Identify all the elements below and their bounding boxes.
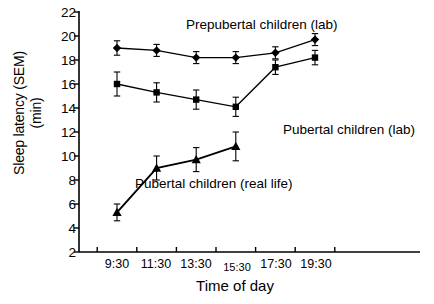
data-point-marker — [232, 53, 240, 61]
data-point-marker — [192, 53, 200, 61]
data-point-marker — [193, 96, 199, 102]
data-point-marker — [271, 49, 279, 57]
y-axis-label-line2: (min) — [28, 98, 44, 129]
y-tick-label-6: 6 — [50, 198, 76, 212]
data-point-marker — [153, 89, 159, 95]
series-label-pubertal-real-life: Pubertal children (real life) — [135, 176, 293, 191]
series-2 — [114, 50, 318, 116]
series-label-pubertal-lab: Pubertal children (lab) — [283, 122, 415, 137]
x-tick-label-5: 19:30 — [291, 258, 341, 271]
y-tick-label-8: 8 — [50, 174, 76, 188]
data-point-marker — [233, 104, 239, 110]
y-tick-label-22: 22 — [50, 6, 76, 20]
series-1 — [113, 34, 319, 64]
y-tick-label-20: 20 — [50, 30, 76, 44]
chart-figure: Sleep latency (SEM)(min) Time of day 22 … — [0, 0, 434, 304]
y-tick-label-16: 16 — [50, 78, 76, 92]
series-label-prepubertal-lab: Prepubertal children (lab) — [186, 17, 338, 32]
y-tick-label-4: 4 — [50, 222, 76, 236]
data-point-marker — [312, 54, 318, 60]
data-point-marker — [114, 81, 120, 87]
y-axis-label: Sleep latency (SEM)(min) — [11, 3, 45, 223]
data-point-marker — [311, 35, 319, 43]
data-point-marker — [152, 46, 160, 54]
data-point-marker — [113, 44, 121, 52]
x-axis-label: Time of day — [120, 277, 350, 294]
y-tick-label-2: 2 — [50, 246, 76, 260]
y-axis-label-line1: Sleep latency (SEM) — [11, 51, 27, 175]
y-tick-label-14: 14 — [50, 102, 76, 116]
series-line — [117, 58, 315, 107]
series-line — [117, 40, 315, 58]
y-tick-label-18: 18 — [50, 54, 76, 68]
y-tick-label-12: 12 — [50, 126, 76, 140]
y-tick-label-10: 10 — [50, 150, 76, 164]
data-point-marker — [231, 142, 240, 150]
data-point-marker — [272, 64, 278, 70]
